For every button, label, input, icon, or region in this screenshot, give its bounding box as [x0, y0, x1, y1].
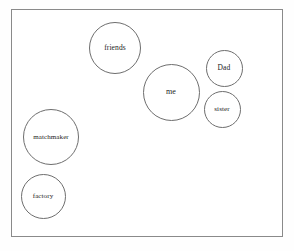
circle-node-factory[interactable]: factory — [21, 174, 66, 219]
circle-node-dad[interactable]: Dad — [206, 50, 243, 87]
circle-node-label-factory: factory — [33, 193, 54, 200]
circle-node-matchmaker[interactable]: matchmaker — [23, 109, 79, 165]
circle-node-label-friends: friends — [104, 44, 126, 52]
circle-node-label-sister: sister — [214, 106, 229, 113]
circle-node-friends[interactable]: friends — [89, 22, 141, 74]
circle-node-label-dad: Dad — [218, 64, 231, 72]
circle-node-label-me: me — [166, 88, 176, 96]
circle-node-sister[interactable]: sister — [204, 91, 241, 128]
circle-node-me[interactable]: me — [143, 64, 200, 121]
circle-node-label-matchmaker: matchmaker — [33, 134, 69, 141]
diagram-canvas: friendsmeDadsistermatchmakerfactory — [0, 0, 294, 251]
diagram-frame: friendsmeDadsistermatchmakerfactory — [11, 9, 283, 237]
